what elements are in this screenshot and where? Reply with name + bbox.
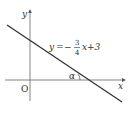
angle-arc <box>78 74 80 80</box>
fraction-numerator: 3 <box>75 39 79 47</box>
equation-eq: = <box>56 42 64 52</box>
origin-label: O <box>21 84 28 94</box>
fraction-denominator: 4 <box>75 49 80 57</box>
equation-rest: x+3 <box>82 42 101 52</box>
coordinate-diagram: y x O y = − 3 4 x+3 α <box>0 0 131 113</box>
equation-lhs: y <box>48 42 55 52</box>
angle-label: α <box>69 71 75 81</box>
x-axis-label: x <box>118 81 123 91</box>
equation-sign: − <box>64 42 72 52</box>
y-axis-label: y <box>21 9 28 19</box>
